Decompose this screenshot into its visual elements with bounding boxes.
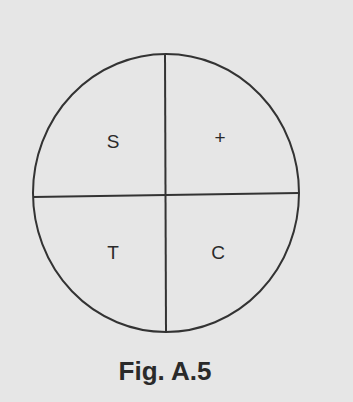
quadrant-label-top-left: S bbox=[107, 131, 120, 153]
figure-caption: Fig. A.5 bbox=[119, 356, 212, 387]
vertical-divider bbox=[165, 54, 166, 332]
quadrant-label-top-right: + bbox=[214, 127, 225, 149]
circle-diagram bbox=[0, 0, 353, 402]
quadrant-label-bottom-right: C bbox=[211, 242, 225, 264]
quadrant-label-bottom-left: T bbox=[107, 242, 119, 264]
